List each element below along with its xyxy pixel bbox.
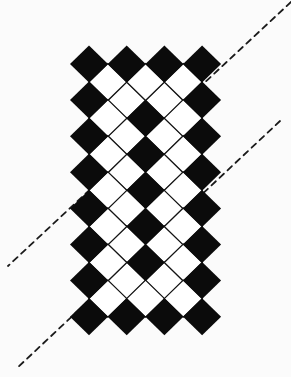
argyle-diagram xyxy=(0,0,291,377)
